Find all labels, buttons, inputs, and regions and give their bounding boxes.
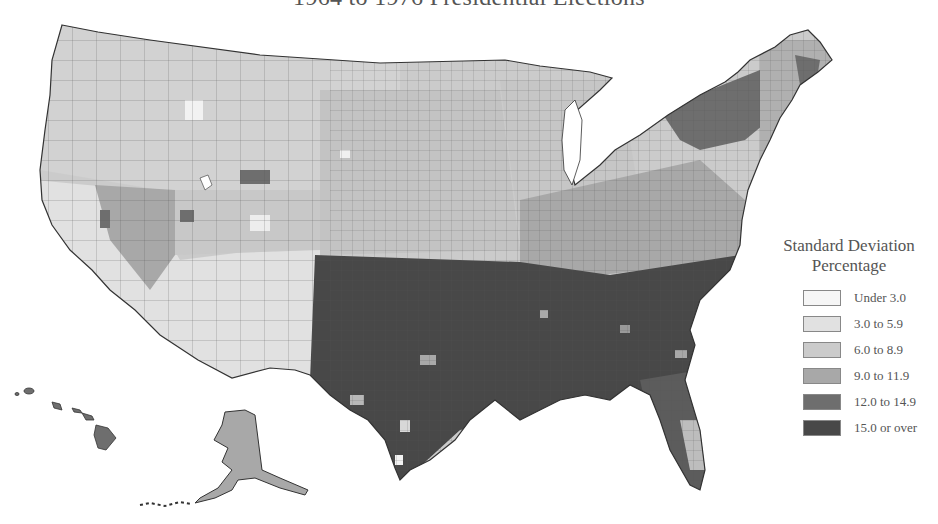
legend-item: 15.0 or over bbox=[803, 419, 917, 437]
legend-title-line1: Standard Deviation bbox=[760, 236, 938, 256]
legend-label: 15.0 or over bbox=[854, 420, 917, 436]
legend-label: 3.0 to 5.9 bbox=[854, 316, 903, 332]
legend-item: 3.0 to 5.9 bbox=[803, 315, 903, 333]
legend-swatch bbox=[803, 394, 841, 410]
hawaii bbox=[15, 388, 116, 450]
legend-item: 12.0 to 14.9 bbox=[803, 393, 916, 411]
legend-item: 6.0 to 8.9 bbox=[803, 341, 903, 359]
legend-label: Under 3.0 bbox=[854, 290, 906, 306]
legend-label: 9.0 to 11.9 bbox=[854, 368, 909, 384]
alaska bbox=[140, 410, 308, 506]
legend-label: 6.0 to 8.9 bbox=[854, 342, 903, 358]
legend-swatch bbox=[803, 290, 841, 306]
legend-swatch bbox=[803, 420, 841, 436]
legend-swatch bbox=[803, 368, 841, 384]
legend-swatch bbox=[803, 342, 841, 358]
legend-swatch bbox=[803, 316, 841, 332]
map-legend: Standard Deviation Percentage bbox=[760, 236, 938, 276]
legend-item: 9.0 to 11.9 bbox=[803, 367, 909, 385]
legend-label: 12.0 to 14.9 bbox=[854, 394, 916, 410]
lake-michigan bbox=[562, 100, 582, 185]
legend-item: Under 3.0 bbox=[803, 289, 906, 307]
legend-title-line2: Percentage bbox=[760, 256, 938, 276]
